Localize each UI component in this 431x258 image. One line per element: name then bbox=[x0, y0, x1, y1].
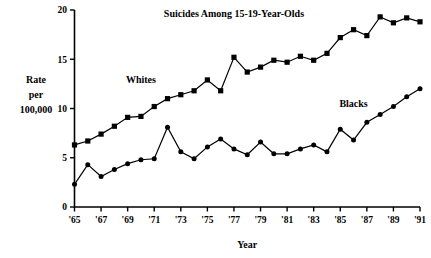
series-label-blacks: Blacks bbox=[339, 98, 367, 109]
y-axis-title-line: per bbox=[29, 89, 44, 100]
x-tick-label: '85 bbox=[334, 215, 346, 225]
data-point-marker bbox=[178, 149, 183, 154]
data-series-group bbox=[72, 14, 423, 187]
y-axis-ticks-group: 05101520 bbox=[58, 5, 75, 212]
x-tick-label: '77 bbox=[228, 215, 240, 225]
data-point-marker bbox=[311, 142, 316, 147]
data-point-marker bbox=[404, 15, 409, 20]
series-whites bbox=[72, 14, 423, 147]
data-point-marker bbox=[165, 125, 170, 130]
data-point-marker bbox=[152, 104, 157, 109]
series-annotations-group: WhitesBlacks bbox=[126, 74, 368, 109]
data-point-marker bbox=[138, 157, 143, 162]
data-point-marker bbox=[378, 14, 383, 19]
data-point-marker bbox=[378, 112, 383, 117]
data-point-marker bbox=[298, 146, 303, 151]
data-point-marker bbox=[271, 151, 276, 156]
data-point-marker bbox=[324, 51, 329, 56]
data-point-marker bbox=[285, 60, 290, 65]
axes-group bbox=[75, 10, 421, 207]
data-point-marker bbox=[218, 88, 223, 93]
data-point-marker bbox=[311, 58, 316, 63]
data-point-marker bbox=[152, 156, 157, 161]
data-point-marker bbox=[125, 161, 130, 166]
x-tick-label: '69 bbox=[122, 215, 134, 225]
x-tick-label: '71 bbox=[148, 215, 160, 225]
data-point-marker bbox=[245, 152, 250, 157]
x-axis-title: Year bbox=[237, 239, 258, 250]
x-tick-label: '79 bbox=[254, 215, 266, 225]
data-point-marker bbox=[258, 65, 263, 70]
series-line bbox=[75, 89, 421, 185]
data-point-marker bbox=[165, 96, 170, 101]
data-point-marker bbox=[258, 139, 263, 144]
y-axis-title-line: 100,000 bbox=[20, 104, 53, 115]
data-point-marker bbox=[404, 94, 409, 99]
data-point-marker bbox=[125, 115, 130, 120]
x-tick-label: '89 bbox=[387, 215, 399, 225]
data-point-marker bbox=[192, 156, 197, 161]
y-tick-label: 15 bbox=[58, 55, 68, 65]
y-axis-title-line: Rate bbox=[26, 74, 47, 85]
data-point-marker bbox=[285, 151, 290, 156]
chart-title-group: Suicides Among 15-19-Year-Olds bbox=[164, 8, 304, 19]
data-point-marker bbox=[205, 144, 210, 149]
axis-lines bbox=[75, 10, 421, 207]
data-point-marker bbox=[418, 86, 423, 91]
x-axis-ticks-group: '65'67'69'71'73'75'77'79'81'83'85'87'89'… bbox=[68, 207, 426, 225]
x-axis-title-group: Year bbox=[237, 239, 258, 250]
data-point-marker bbox=[417, 19, 422, 24]
data-point-marker bbox=[338, 127, 343, 132]
data-point-marker bbox=[218, 137, 223, 142]
data-point-marker bbox=[271, 58, 276, 63]
data-point-marker bbox=[391, 104, 396, 109]
x-tick-label: '91 bbox=[414, 215, 426, 225]
data-point-marker bbox=[298, 54, 303, 59]
data-point-marker bbox=[112, 167, 117, 172]
data-point-marker bbox=[245, 69, 250, 74]
y-axis-title-group: Rateper100,000 bbox=[20, 74, 53, 115]
y-tick-label: 5 bbox=[62, 153, 67, 163]
data-point-marker bbox=[231, 55, 236, 60]
y-tick-label: 20 bbox=[58, 5, 68, 15]
data-point-marker bbox=[112, 124, 117, 129]
data-point-marker bbox=[324, 149, 329, 154]
data-point-marker bbox=[99, 174, 104, 179]
data-point-marker bbox=[98, 132, 103, 137]
data-point-marker bbox=[364, 120, 369, 125]
data-point-marker bbox=[178, 92, 183, 97]
x-tick-label: '87 bbox=[361, 215, 373, 225]
x-tick-label: '75 bbox=[201, 215, 213, 225]
data-point-marker bbox=[138, 114, 143, 119]
data-point-marker bbox=[85, 162, 90, 167]
series-blacks bbox=[72, 86, 423, 187]
series-label-whites: Whites bbox=[126, 74, 156, 85]
x-tick-label: '83 bbox=[308, 215, 320, 225]
data-point-marker bbox=[205, 77, 210, 82]
data-point-marker bbox=[85, 138, 90, 143]
data-point-marker bbox=[351, 138, 356, 143]
y-tick-label: 10 bbox=[58, 104, 68, 114]
x-tick-label: '81 bbox=[281, 215, 293, 225]
data-point-marker bbox=[391, 20, 396, 25]
data-point-marker bbox=[192, 88, 197, 93]
x-tick-label: '65 bbox=[68, 215, 80, 225]
data-point-marker bbox=[72, 182, 77, 187]
x-tick-label: '67 bbox=[95, 215, 107, 225]
data-point-marker bbox=[351, 27, 356, 32]
x-tick-label: '73 bbox=[175, 215, 187, 225]
data-point-marker bbox=[364, 33, 369, 38]
y-tick-label: 0 bbox=[62, 202, 67, 212]
chart-container: Suicides Among 15-19-Year-Olds 05101520 … bbox=[0, 0, 431, 258]
suicide-rate-line-chart: Suicides Among 15-19-Year-Olds 05101520 … bbox=[0, 0, 431, 258]
data-point-marker bbox=[231, 146, 236, 151]
chart-title: Suicides Among 15-19-Year-Olds bbox=[164, 8, 304, 19]
data-point-marker bbox=[72, 142, 77, 147]
data-point-marker bbox=[338, 35, 343, 40]
